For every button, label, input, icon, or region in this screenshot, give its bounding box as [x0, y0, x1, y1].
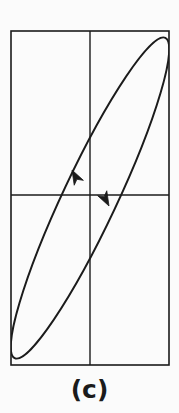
lissajous-figure-svg: [0, 0, 179, 413]
figure-caption: (c): [0, 368, 179, 412]
figure-container: (c): [0, 0, 179, 413]
lower-branch-arrow-icon: [98, 191, 114, 209]
